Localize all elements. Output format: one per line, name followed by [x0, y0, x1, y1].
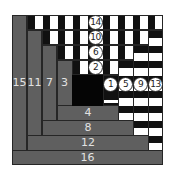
label-7: 7	[42, 77, 57, 89]
log-cabin-block: 15 11 7 3 4 8 12 16 14 10 6 2 1 5 9 13	[12, 15, 163, 165]
label-11: 11	[27, 77, 42, 89]
label-10: 10	[88, 30, 103, 45]
label-1: 1	[103, 77, 118, 92]
label-14: 14	[88, 15, 103, 30]
label-8: 8	[42, 122, 134, 134]
label-13: 13	[148, 77, 163, 92]
label-9: 9	[133, 77, 148, 92]
label-2: 2	[88, 60, 103, 75]
label-5: 5	[118, 77, 133, 92]
label-16: 16	[12, 152, 163, 164]
label-12: 12	[27, 137, 149, 149]
label-4: 4	[57, 107, 119, 119]
label-6: 6	[88, 45, 103, 60]
label-3: 3	[57, 77, 72, 89]
center-square	[72, 75, 103, 106]
label-15: 15	[12, 77, 27, 89]
